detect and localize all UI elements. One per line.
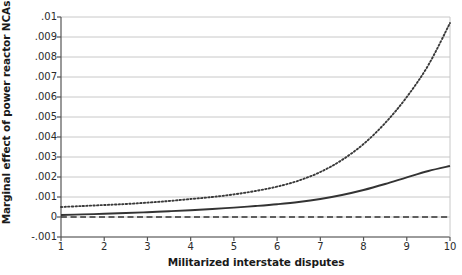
x-axis-tick-labels: 12345678910	[0, 242, 462, 256]
x-axis-title: Militarized interstate disputes	[61, 256, 451, 268]
plot-area	[0, 0, 462, 275]
data-curves	[61, 23, 450, 217]
x-tick-label: 2	[89, 242, 119, 252]
marginal-effect-chart: Marginal effect of power reactor NCAs .0…	[0, 0, 462, 275]
x-tick-label: 8	[349, 242, 379, 252]
x-tick-label: 5	[219, 242, 249, 252]
x-tick-label: 4	[176, 242, 206, 252]
x-tick-label: 7	[305, 242, 335, 252]
x-tick-label: 6	[262, 242, 292, 252]
x-tick-label: 9	[392, 242, 422, 252]
axis-ticks	[57, 17, 450, 241]
series-upper-confidence-bound	[61, 23, 450, 207]
x-tick-label: 10	[435, 242, 462, 252]
x-tick-label: 1	[46, 242, 76, 252]
x-tick-label: 3	[132, 242, 162, 252]
